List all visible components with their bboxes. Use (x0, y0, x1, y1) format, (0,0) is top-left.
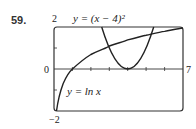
y-min-label: −2 (49, 114, 60, 125)
log-curve (57, 28, 184, 111)
graph: 2 0 −2 7 y = (x − 4)² y = ln x (0, 0, 196, 129)
parabola-curve (102, 27, 154, 69)
parabola-equation-label: y = (x − 4)² (72, 12, 125, 25)
log-equation-label: y = ln x (66, 85, 101, 97)
y-zero-label: 0 (44, 64, 49, 75)
x-max-label: 7 (186, 64, 191, 75)
y-max-label: 2 (52, 13, 57, 24)
